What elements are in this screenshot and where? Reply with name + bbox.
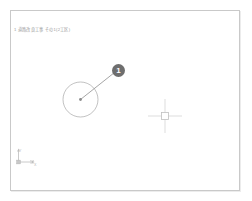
- balloon-callout[interactable]: 1: [112, 64, 125, 77]
- ucs-y-axis-label: Y: [19, 149, 21, 153]
- sheet-title-note: 1 道路改良工事 その1(2工区): [14, 27, 70, 33]
- ucs-x-axis-label: X: [34, 163, 36, 167]
- cad-application-window: 1 道路改良工事 その1(2工区) 1 Y X: [0, 0, 252, 201]
- drawing-canvas[interactable]: [10, 10, 240, 191]
- center-grip-point[interactable]: [79, 98, 82, 101]
- crosshair-pickbox: [162, 113, 169, 120]
- ucs-origin-box: [17, 160, 21, 164]
